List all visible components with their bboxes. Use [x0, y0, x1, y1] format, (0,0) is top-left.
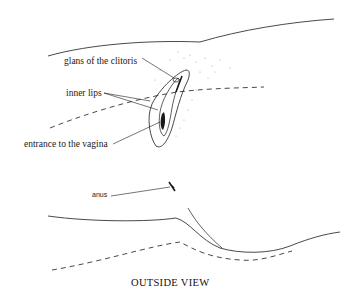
lower-dashed-line — [52, 242, 292, 270]
glans-leader — [142, 58, 174, 78]
inner-lips-leader-b — [104, 93, 158, 110]
anatomy-diagram: glans of the clitoris inner lips entranc… — [0, 0, 355, 301]
anus-mark — [169, 182, 175, 191]
upper-contour-line — [48, 19, 334, 56]
line-drawing — [0, 0, 355, 301]
outer-lips-outline — [149, 70, 189, 147]
label-entrance: entrance to the vagina — [24, 139, 108, 149]
label-inner-lips: inner lips — [66, 88, 102, 98]
lower-crease-line — [188, 208, 222, 248]
vaginal-opening — [161, 112, 165, 130]
anus-leader — [111, 187, 170, 196]
figure-caption: OUTSIDE VIEW — [131, 277, 209, 288]
lower-contour-line — [48, 216, 340, 252]
label-anus: anus — [92, 191, 107, 198]
inner-lips-leader-a — [104, 93, 150, 101]
label-glans: glans of the clitoris — [64, 56, 137, 66]
